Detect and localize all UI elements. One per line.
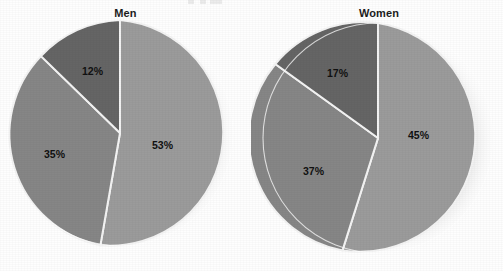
pie-label-women-17: 17% — [327, 67, 348, 79]
pie-label-men-12: 12% — [82, 65, 103, 77]
pie-label-men-35: 35% — [44, 148, 65, 160]
pie-chart-women — [251, 0, 503, 271]
pie-label-women-37: 37% — [303, 165, 324, 177]
pie-label-men-53: 53% — [152, 139, 173, 151]
pie-chart-men — [0, 0, 251, 271]
chart-panel-men: Men 12% 35% 53% — [0, 0, 251, 271]
chart-panel-women: Women 17% 37% 45% — [251, 0, 503, 271]
pie-label-women-45: 45% — [408, 129, 429, 141]
